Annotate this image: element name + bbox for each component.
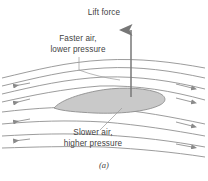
- left-arrow-1: [14, 83, 30, 86]
- lift-force-label: Lift force: [0, 8, 208, 19]
- airfoil-lift-figure: Lift force Faster air, lower pressure Sl…: [0, 0, 208, 181]
- streamline-left-arrowheads: [14, 83, 30, 141]
- left-arrow-2: [14, 99, 30, 103]
- slower-air-label: Slower air, higher pressure: [38, 128, 148, 149]
- slower-air-line1: Slower air,: [73, 128, 112, 137]
- slower-air-line2: higher pressure: [64, 139, 122, 148]
- right-arrow-2: [176, 98, 192, 102]
- airfoil-shape: [54, 88, 165, 113]
- right-arrow-3: [176, 122, 192, 126]
- faster-air-line2: lower pressure: [50, 45, 105, 54]
- streamline-above-1: [2, 59, 205, 78]
- diagram-canvas: [0, 0, 208, 181]
- left-arrow-4: [14, 139, 30, 141]
- faster-air-line1: Faster air,: [59, 34, 97, 43]
- left-arrow-3: [14, 119, 30, 122]
- figure-caption: (a): [0, 160, 208, 170]
- faster-air-label: Faster air, lower pressure: [30, 34, 126, 55]
